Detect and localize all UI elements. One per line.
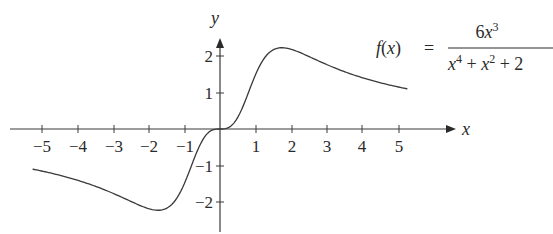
y-tick-label: 2	[205, 47, 214, 66]
x-tick-label: −3	[105, 137, 123, 156]
x-tick-label: −1	[176, 137, 194, 156]
formula-denominator: x4 + x2 + 2	[447, 52, 523, 74]
y-tick-label: −2	[195, 193, 213, 212]
x-axis-arrow-icon	[446, 125, 456, 133]
x-tick-label: −4	[69, 137, 88, 156]
formula-numerator: 6x3	[476, 20, 499, 42]
x-tick-label: 4	[358, 137, 367, 156]
x-tick-label: 5	[395, 137, 404, 156]
function-formula: f(x) = 6x3 x4 + x2 + 2	[376, 20, 553, 74]
x-tick-label: −2	[140, 137, 158, 156]
y-axis-label: y	[209, 8, 219, 28]
x-axis-label: x	[461, 119, 470, 139]
y-tick-label: 1	[205, 84, 214, 103]
formula-lhs: f(x)	[376, 38, 401, 59]
x-tick-label: 3	[323, 137, 332, 156]
y-tick-label: −1	[195, 157, 213, 176]
chart-canvas: x y −5 −4 −3 −2 −1 1 2 3 4 5 2 1	[0, 0, 553, 234]
x-tick-labels: −5 −4 −3 −2 −1 1 2 3 4 5	[33, 137, 403, 156]
x-tick-label: −5	[33, 137, 51, 156]
y-axis-arrow-icon	[216, 38, 224, 48]
x-tick-label: 2	[288, 137, 297, 156]
x-tick-label: 1	[252, 137, 261, 156]
formula-equals: =	[424, 38, 434, 58]
